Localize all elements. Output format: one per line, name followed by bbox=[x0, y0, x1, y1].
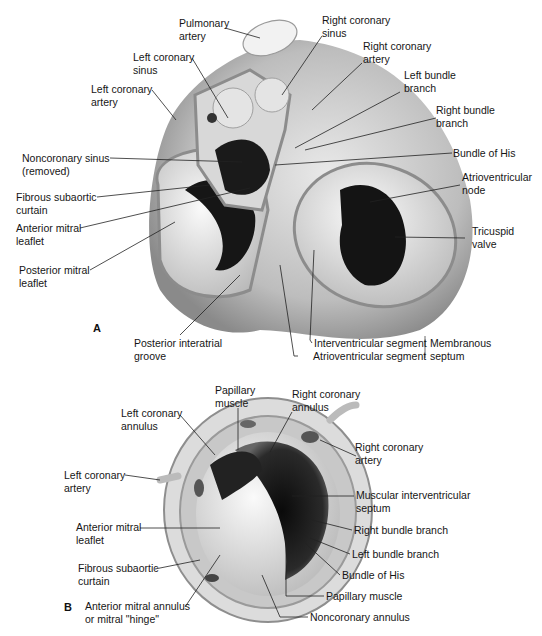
label-interventricular-segment: Interventricular segment bbox=[314, 337, 427, 350]
label-noncoronary-sinus: Noncoronary sinus(removed) bbox=[22, 152, 110, 178]
label-left-coronary-artery-a: Left coronaryartery bbox=[91, 83, 152, 109]
label-right-bundle-branch-a: Right bundlebranch bbox=[436, 104, 495, 130]
label-left-coronary-annulus: Left coronaryannulus bbox=[121, 407, 182, 433]
label-right-coronary-artery-a: Right coronaryartery bbox=[363, 40, 431, 66]
label-papillary-muscle-top: Papillarymuscle bbox=[215, 384, 255, 410]
label-papillary-muscle-bottom: Papillary muscle bbox=[326, 590, 402, 603]
label-fibrous-subaortic-curtain-b: Fibrous subaorticcurtain bbox=[78, 562, 159, 588]
label-tricuspid-valve: Tricuspidvalve bbox=[472, 225, 514, 251]
label-right-bundle-branch-b: Right bundle branch bbox=[354, 524, 448, 537]
panel-b-art bbox=[160, 398, 372, 622]
panel-letter-a: A bbox=[93, 322, 101, 334]
label-anterior-mitral-leaflet-a: Anterior mitralleaflet bbox=[16, 222, 81, 248]
label-muscular-interventricular-septum: Muscular interventricularseptum bbox=[356, 489, 470, 515]
label-left-coronary-sinus: Left coronarysinus bbox=[133, 51, 194, 77]
label-left-bundle-branch-a: Left bundlebranch bbox=[404, 69, 456, 95]
label-right-coronary-sinus: Right coronarysinus bbox=[322, 14, 390, 40]
label-noncoronary-annulus: Noncoronary annulus bbox=[310, 611, 410, 624]
label-anterior-mitral-annulus: Anterior mitral annulusor mitral "hinge" bbox=[85, 600, 190, 626]
label-atrioventricular-node: Atrioventricularnode bbox=[462, 171, 532, 197]
label-fibrous-subaortic-curtain-a: Fibrous subaorticcurtain bbox=[16, 191, 97, 217]
label-posterior-mitral-leaflet: Posterior mitralleaflet bbox=[19, 264, 90, 290]
label-bundle-of-his-a: Bundle of His bbox=[453, 147, 515, 160]
label-pulmonary-artery: Pulmonaryartery bbox=[179, 17, 229, 43]
label-bundle-of-his-b: Bundle of His bbox=[342, 569, 404, 582]
label-atrioventricular-segment: Atrioventricular segment bbox=[313, 350, 426, 363]
panel-letter-b: B bbox=[64, 601, 72, 613]
label-posterior-interatrial-groove: Posterior interatrialgroove bbox=[134, 337, 222, 363]
label-right-coronary-artery-b: Right coronaryartery bbox=[355, 441, 423, 467]
label-membranous-septum: Membranousseptum bbox=[430, 337, 491, 363]
label-left-coronary-artery-b: Left coronaryartery bbox=[64, 469, 125, 495]
label-left-bundle-branch-b: Left bundle branch bbox=[352, 548, 439, 561]
label-right-coronary-annulus: Right coronaryannulus bbox=[292, 388, 360, 414]
label-anterior-mitral-leaflet-b: Anterior mitralleaflet bbox=[76, 521, 141, 547]
